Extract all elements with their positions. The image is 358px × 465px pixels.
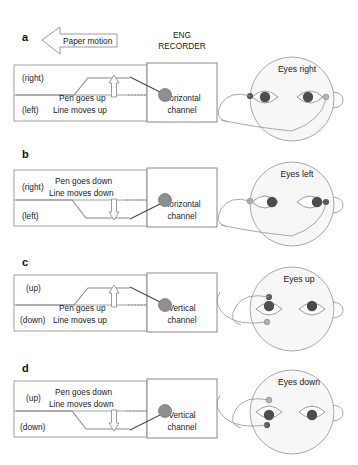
panel-b-pen-dot: [159, 194, 172, 207]
panel-c-caption-line1: Pen goes up: [59, 303, 106, 313]
panel-d-top-label: (up): [26, 393, 41, 403]
panel-b-pupil-right: [312, 197, 322, 207]
panel-d-channel-line1: Vertical: [168, 410, 195, 420]
panel-c-top-label: (up): [26, 283, 41, 293]
paper-motion-label: Paper motion: [63, 36, 113, 46]
panel-c-pupil-left: [264, 301, 274, 311]
panel-d-letter: d: [22, 362, 29, 374]
panel-c-head-label: Eyes up: [283, 274, 314, 284]
panel-c-caption-line2: Line moves up: [53, 315, 107, 325]
panel-c-bottom-label: (down): [20, 315, 46, 325]
panel-c-channel-line2: channel: [167, 315, 196, 325]
panel-d-channel-line2: channel: [167, 422, 196, 432]
panel-b-top-label: (right): [22, 182, 44, 192]
panel-a-head-label: Eyes right: [278, 64, 317, 74]
recorder-title-line2: RECORDER: [158, 41, 205, 51]
panel-d-bottom-label: (down): [20, 422, 46, 432]
panel-d-pupil-right: [307, 410, 317, 420]
panel-c-letter: c: [22, 256, 28, 268]
panel-d-caption-line2: Line moves down: [49, 399, 114, 409]
panel-a-pupil-right: [303, 92, 313, 102]
panel-a-pupil-left: [260, 92, 270, 102]
panel-d-caption-line1: Pen goes down: [55, 387, 113, 397]
panel-d-head-label: Eyes down: [278, 377, 320, 387]
panel-a-caption-line1: Pen goes up: [59, 93, 106, 103]
panel-b-pupil-left: [267, 197, 277, 207]
eng-recorder-figure: a Paper motion ENG RECORDER (right) (lef…: [0, 0, 358, 465]
panel-a-caption-line2: Line moves up: [53, 105, 107, 115]
panel-a-bottom-label: (left): [22, 105, 39, 115]
recorder-title-line1: ENG: [173, 30, 191, 40]
panel-a-letter: a: [22, 31, 29, 43]
panel-b-bottom-label: (left): [22, 211, 39, 221]
panel-c-channel-line1: Vertical: [168, 303, 195, 313]
panel-c-pen-dot: [159, 299, 172, 312]
panel-d-pupil-left: [264, 410, 274, 420]
panel-b-caption-line1: Pen goes down: [55, 176, 113, 186]
panel-b-letter: b: [22, 148, 29, 160]
panel-a-channel-line2: channel: [167, 105, 196, 115]
panel-a-top-label: (right): [22, 73, 44, 83]
panel-b-channel-line2: channel: [167, 211, 196, 221]
panel-b-caption-line2: Line moves down: [49, 188, 114, 198]
panel-b-head-label: Eyes left: [281, 169, 315, 179]
panel-a-pen-dot: [159, 89, 172, 102]
panel-d-pen-dot: [159, 405, 172, 418]
panel-c-pupil-right: [307, 301, 317, 311]
